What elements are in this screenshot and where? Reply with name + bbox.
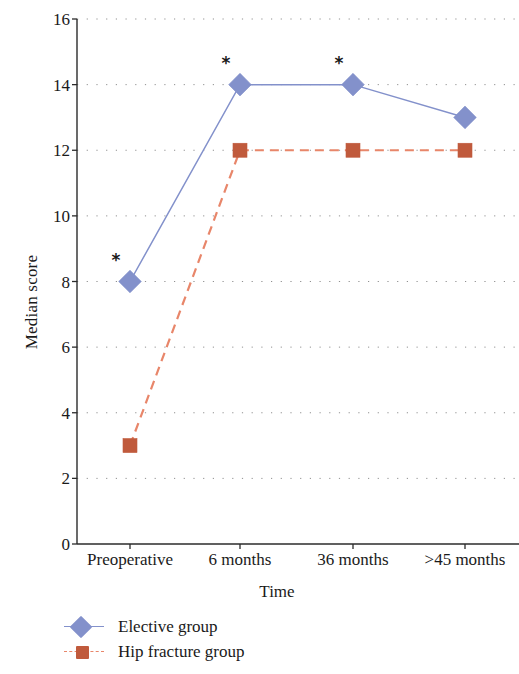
legend-key <box>62 641 106 663</box>
data-point-marker <box>342 73 365 96</box>
data-point-marker <box>123 439 137 453</box>
plot-area <box>77 19 519 544</box>
y-tick-label: 6 <box>36 339 70 356</box>
data-point-marker <box>346 143 360 157</box>
y-tick-label: 10 <box>36 207 70 224</box>
plot-svg <box>77 19 519 544</box>
series-line <box>130 85 465 282</box>
data-point-marker <box>458 143 472 157</box>
chart-legend: Elective groupHip fracture group <box>62 614 362 664</box>
x-tick-label: >45 months <box>425 551 506 570</box>
series-line <box>130 150 465 445</box>
y-tick-label: 2 <box>36 470 70 487</box>
legend-diamond-icon <box>70 615 93 638</box>
significance-asterisk: * <box>222 54 231 71</box>
significance-asterisk: * <box>335 54 344 71</box>
x-axis-title: Time <box>77 582 477 602</box>
data-point-marker <box>119 270 142 293</box>
legend-item[interactable]: Hip fracture group <box>62 639 362 664</box>
y-tick-label: 12 <box>36 142 70 159</box>
legend-key <box>62 616 106 638</box>
legend-label: Hip fracture group <box>106 642 245 662</box>
x-tick-label: Preoperative <box>87 551 173 570</box>
y-tick-label: 16 <box>36 11 70 28</box>
y-tick-label: 0 <box>36 536 70 553</box>
chart-figure: Median score 0246810121416 Preoperative6… <box>0 0 519 674</box>
x-axis-tick-labels: Preoperative6 months36 months>45 months <box>77 551 519 577</box>
legend-label: Elective group <box>106 617 218 637</box>
data-point-marker <box>454 106 477 129</box>
y-tick-label: 4 <box>36 404 70 421</box>
data-point-marker <box>233 143 247 157</box>
significance-asterisk: * <box>112 251 121 268</box>
data-point-marker <box>229 73 252 96</box>
y-tick-label: 14 <box>36 76 70 93</box>
x-tick-label: 6 months <box>209 551 272 570</box>
x-tick-label: 36 months <box>317 551 388 570</box>
legend-item[interactable]: Elective group <box>62 614 362 639</box>
legend-square-icon <box>76 646 89 659</box>
y-tick-label: 8 <box>36 273 70 290</box>
y-axis-tick-labels: 0246810121416 <box>30 0 70 674</box>
